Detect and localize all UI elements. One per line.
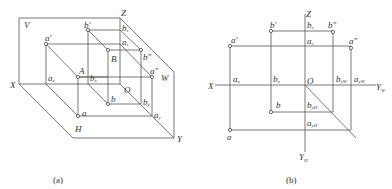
label-ayW: ayW <box>354 74 366 84</box>
label-by: by <box>143 97 151 107</box>
label-O: O <box>124 85 131 95</box>
label-byW: byW <box>336 74 348 84</box>
label-Z: Z <box>306 9 312 19</box>
point-B <box>106 48 109 51</box>
label-a: a <box>227 132 232 142</box>
label-ax: ax <box>48 73 56 83</box>
label-X: X <box>207 81 214 91</box>
label-a: a <box>82 108 87 118</box>
label-YH: YH <box>299 152 308 163</box>
label-byH: byH <box>307 100 318 110</box>
point-a <box>76 114 79 117</box>
point-b <box>106 102 109 105</box>
label-B: B <box>111 54 117 64</box>
projection-diagram: V H W X Y Z O A B a′ b′ a″ b″ a b ax bx … <box>0 0 392 189</box>
label-az: az <box>307 36 314 46</box>
v-plane-outline <box>19 18 120 84</box>
label-ay: ay <box>154 110 162 120</box>
caption-a: (a) <box>53 175 63 185</box>
label-X: X <box>9 80 16 90</box>
label-YW: YW <box>376 82 386 93</box>
ax-to-a <box>46 84 78 116</box>
label-bx: bx <box>90 73 98 83</box>
label-b: b <box>276 100 281 110</box>
caption-b: (b) <box>286 175 297 185</box>
panel-b: X Z O YW YH a′ b′ a″ b″ a b ax bx az bz … <box>207 9 386 185</box>
point-b-dprime <box>331 30 334 33</box>
panel-a: V H W X Y Z O A B a′ b′ a″ b″ a b ax bx … <box>9 8 183 185</box>
label-b: b <box>111 94 116 104</box>
label-b-dprime: b″ <box>143 52 152 62</box>
label-W: W <box>161 73 170 83</box>
b-prime-to-B <box>88 30 108 50</box>
label-O: O <box>307 76 314 86</box>
label-a-dprime: a″ <box>150 66 159 76</box>
label-bz: bz <box>122 23 129 33</box>
label-az: az <box>122 37 129 47</box>
label-Z: Z <box>121 8 127 18</box>
bx-to-b <box>88 84 108 104</box>
label-A: A <box>78 66 85 76</box>
label-V: V <box>24 20 31 30</box>
label-H: H <box>74 124 82 134</box>
label-ayH: ayH <box>307 118 318 128</box>
label-Y: Y <box>177 134 183 144</box>
label-b-dprime: b″ <box>328 20 337 30</box>
label-bx: bx <box>273 74 281 84</box>
point-a-dprime <box>349 46 352 49</box>
label-bz: bz <box>307 20 314 30</box>
label-a-dprime: a″ <box>349 36 358 46</box>
label-a-prime: a′ <box>45 33 53 43</box>
point-b <box>269 110 272 113</box>
label-a-prime: a′ <box>231 35 239 45</box>
label-ax: ax <box>233 74 241 84</box>
label-b-prime: b′ <box>270 20 278 30</box>
label-b-prime: b′ <box>84 20 92 30</box>
